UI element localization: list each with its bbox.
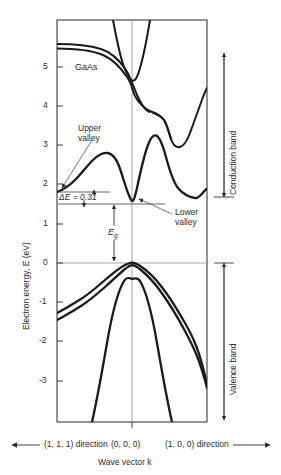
delta-e-label: ΔE = 0.31 xyxy=(59,193,97,203)
eg-subscript: g xyxy=(114,232,118,239)
upper-valley-label-line2: valley xyxy=(78,134,101,144)
conduction-band-label: Conduction band xyxy=(229,131,239,195)
lower-valley-label: Lower valley xyxy=(175,208,198,228)
y-tick-label-2: 2 xyxy=(43,179,48,189)
conduction-band-label-text: Conduction band xyxy=(228,131,238,195)
material-label: GaAs xyxy=(75,62,98,72)
delta-e-text: ΔE = 0.31 xyxy=(59,192,97,202)
lower-valley-leader xyxy=(139,199,172,214)
upper-valley-label: Upper valley xyxy=(78,124,101,144)
y-tick-label-3: 3 xyxy=(43,140,48,150)
x-axis-title-text: Wave vector k xyxy=(98,457,152,467)
valence-band-label: Valence band xyxy=(229,344,239,395)
x-label-left: (1, 1, 1) direction xyxy=(44,440,108,450)
x-label-right: (1, 0, 0) direction xyxy=(165,440,229,450)
upper-valley-leader xyxy=(62,140,92,188)
band-conduction-steep-gamma xyxy=(113,20,150,81)
y-axis-ticks xyxy=(57,67,63,381)
eg-label: Eg xyxy=(108,227,118,239)
y-tick-label-1: 1 xyxy=(43,219,48,229)
x-axis-title: Wave vector k xyxy=(98,458,152,468)
y-axis-title: Electron energy, E (eV) xyxy=(22,242,32,330)
y-tick-label-5: 5 xyxy=(43,62,48,72)
y-tick-label-4: 4 xyxy=(43,101,48,111)
x-label-center: (0, 0, 0) xyxy=(111,440,140,450)
lower-valley-label-line2: valley xyxy=(175,218,198,228)
y-tick-label-neg2: -2 xyxy=(39,336,47,346)
y-axis-title-text: Electron energy, E (eV) xyxy=(21,242,31,330)
valence-band-label-text: Valence band xyxy=(228,344,238,395)
y-tick-label-0: 0 xyxy=(43,258,48,268)
y-tick-label-neg3: -3 xyxy=(39,376,47,386)
y-tick-label-neg1: -1 xyxy=(39,297,47,307)
